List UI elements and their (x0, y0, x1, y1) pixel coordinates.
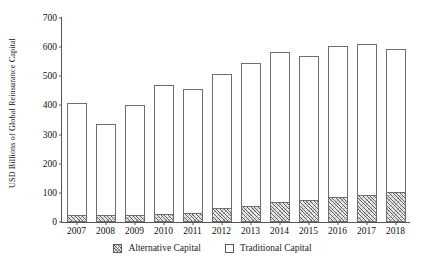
bar-group: 2016 (323, 18, 352, 222)
bar-segment-alternative-capital (184, 213, 202, 221)
bar-segment-alternative-capital (387, 192, 405, 221)
x-axis-tick-label: 2010 (154, 226, 173, 236)
bar-segment-alternative-capital (271, 202, 289, 221)
bar-group: 2017 (352, 18, 381, 222)
stacked-bar (241, 63, 261, 222)
x-axis-tick-mark (279, 222, 280, 225)
x-axis-tick-mark (134, 222, 135, 225)
bar-group: 2011 (178, 18, 207, 222)
bar-group: 2015 (294, 18, 323, 222)
x-axis-tick-mark (192, 222, 193, 225)
bar-group: 2009 (120, 18, 149, 222)
x-axis-tick-mark (337, 222, 338, 225)
x-axis-tick-mark (308, 222, 309, 225)
x-axis-tick-label: 2009 (125, 226, 144, 236)
stacked-bar (299, 56, 319, 222)
x-axis-tick-mark (221, 222, 222, 225)
bar-segment-alternative-capital (358, 195, 376, 221)
x-axis-tick-mark (395, 222, 396, 225)
reinsurance-capital-chart: USD Billions of Global Reinsurance Capit… (0, 0, 425, 265)
bar-segment-alternative-capital (300, 200, 318, 221)
stacked-bar (328, 46, 348, 222)
x-axis-tick-mark (163, 222, 164, 225)
bar-segment-alternative-capital (242, 206, 260, 221)
stacked-bar (183, 89, 203, 222)
stacked-bar (270, 52, 290, 222)
plot-area: 0100200300400500600700200720082009201020… (62, 18, 410, 222)
x-axis-tick-label: 2017 (357, 226, 376, 236)
stacked-bar (212, 74, 232, 222)
stacked-bar (96, 124, 116, 223)
bar-segment-alternative-capital (126, 215, 144, 221)
open-square-icon (225, 244, 234, 253)
bar-segment-alternative-capital (155, 214, 173, 221)
y-axis-title-label: USD Billions of Global Reinsurance Capit… (8, 38, 17, 188)
bar-group: 2012 (207, 18, 236, 222)
bar-segment-alternative-capital (97, 215, 115, 221)
bar-group: 2007 (62, 18, 91, 222)
x-axis-tick-label: 2012 (212, 226, 231, 236)
stacked-bar (125, 105, 145, 222)
legend-label-alternative-capital: Alternative Capital (128, 243, 201, 253)
stacked-bar (357, 44, 377, 222)
x-axis-tick-mark (250, 222, 251, 225)
bar-segment-alternative-capital (329, 197, 347, 221)
x-axis-tick-label: 2008 (96, 226, 115, 236)
y-axis-title: USD Billions of Global Reinsurance Capit… (2, 0, 22, 225)
x-axis-tick-label: 2011 (183, 226, 202, 236)
legend-item-traditional-capital: Traditional Capital (225, 243, 312, 253)
x-axis-tick-label: 2016 (328, 226, 347, 236)
stacked-bar (386, 49, 406, 222)
chart-legend: Alternative Capital Traditional Capital (0, 243, 425, 253)
bar-group: 2014 (265, 18, 294, 222)
stacked-bar (67, 103, 87, 222)
bar-group: 2013 (236, 18, 265, 222)
hatched-square-icon (113, 244, 122, 253)
stacked-bar (154, 85, 174, 222)
legend-label-traditional-capital: Traditional Capital (240, 243, 312, 253)
x-axis-tick-mark (76, 222, 77, 225)
x-axis-tick-mark (105, 222, 106, 225)
bar-segment-alternative-capital (68, 215, 86, 221)
x-axis-tick-mark (366, 222, 367, 225)
legend-item-alternative-capital: Alternative Capital (113, 243, 201, 253)
x-axis-tick-label: 2007 (67, 226, 86, 236)
x-axis-tick-label: 2013 (241, 226, 260, 236)
bar-segment-alternative-capital (213, 208, 231, 221)
x-axis-tick-label: 2015 (299, 226, 318, 236)
bar-group: 2018 (381, 18, 410, 222)
x-axis-tick-label: 2018 (386, 226, 405, 236)
bar-group: 2008 (91, 18, 120, 222)
x-axis-tick-label: 2014 (270, 226, 289, 236)
x-axis-line (61, 222, 410, 223)
bar-group: 2010 (149, 18, 178, 222)
